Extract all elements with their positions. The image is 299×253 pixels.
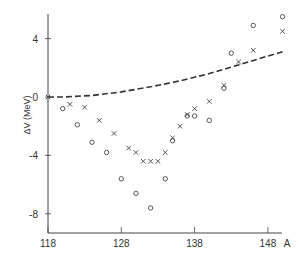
circle-marker [148,206,152,210]
circle-marker [163,177,167,181]
cross-marker [97,118,102,123]
circle-marker [170,139,174,143]
cross-marker [126,146,131,151]
circle-marker [207,118,211,122]
x-tick-label: 138 [186,238,203,249]
x-tick-label: 118 [40,238,56,249]
cross-marker [134,150,139,155]
circle-marker [60,106,64,110]
circle-marker [251,23,255,27]
cross-marker [156,159,161,164]
y-tick-label: -4 [29,150,38,161]
circle-marker [192,114,196,118]
cross-marker [163,150,168,155]
cross-marker [251,48,256,53]
circle-marker [222,86,226,90]
cross-marker [280,29,285,34]
circle-marker [90,140,94,144]
y-tick-label: 0 [32,92,38,103]
cross-marker [112,131,117,136]
cross-marker [236,60,241,65]
cross-marker [207,99,212,104]
x-tick-label: 148 [260,238,277,249]
scatter-chart: 40-4-8118128138148A ΔV (MeV) [0,0,299,253]
axes: 40-4-8118128138148A [29,14,291,249]
cross-marker [68,102,73,107]
cross-marker [192,106,197,111]
y-tick-label: 4 [32,34,38,45]
x-tick-label: 128 [113,238,130,249]
cross-marker [148,159,153,164]
cross-marker [141,159,146,164]
circle-marker [104,150,108,154]
dashed-curve [48,52,283,97]
cross-marker [82,105,87,110]
circle-marker [229,51,233,55]
circle-marker [75,123,79,127]
x-axis-label: A [284,238,291,249]
circle-marker [119,177,123,181]
data-points [46,15,285,211]
circle-marker [134,191,138,195]
y-axis-label: ΔV (MeV) [22,95,32,134]
y-tick-label: -8 [29,209,38,220]
cross-marker [178,124,183,129]
dashed-curve-path [48,52,283,97]
circle-marker [280,15,284,19]
